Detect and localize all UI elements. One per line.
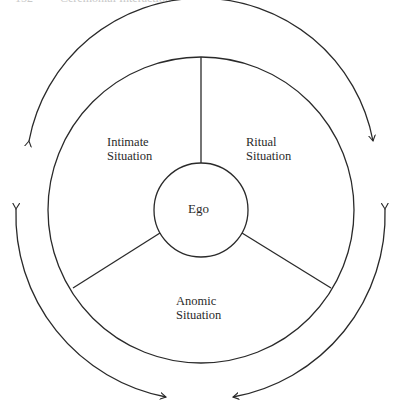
segment-label-ritual: Ritual Situation (246, 135, 291, 163)
divider-left (73, 233, 160, 288)
segment-label-line: Situation (107, 149, 152, 163)
segment-label-line: Situation (176, 308, 221, 322)
segment-label-line: Situation (246, 149, 291, 163)
ego-label: Ego (188, 202, 209, 216)
divider-right (242, 233, 331, 288)
segment-label-line: Anomic (176, 294, 221, 308)
segment-label-line: Ritual (246, 135, 291, 149)
segment-label-line: Intimate (107, 135, 152, 149)
segment-label-intimate: Intimate Situation (107, 135, 152, 163)
segment-label-anomic: Anomic Situation (176, 294, 221, 322)
left-arc-arrow-icon (16, 209, 166, 397)
right-arc-arrow-icon (233, 209, 385, 397)
